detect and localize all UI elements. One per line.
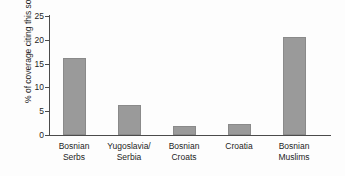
y-axis-tick [45, 40, 49, 41]
y-axis-tick-label: 20 [18, 36, 44, 44]
bar [228, 124, 251, 135]
y-axis-tick-label-wrap: 20 [14, 36, 44, 44]
y-axis-tick [45, 135, 49, 136]
y-axis-tick-label: 5 [18, 107, 44, 115]
y-axis-tick-label-wrap: 25 [14, 12, 44, 20]
bar [63, 58, 86, 135]
y-axis-tick [45, 64, 49, 65]
y-axis-tick [45, 111, 49, 112]
x-axis-category-label: Bosnian Muslims [262, 141, 326, 162]
y-axis-line [49, 15, 50, 136]
y-axis-tick-label: 25 [18, 12, 44, 20]
bar [173, 126, 196, 135]
y-axis-tick [45, 16, 49, 17]
x-axis-line [49, 135, 331, 136]
y-axis-tick-label: 10 [18, 83, 44, 91]
y-axis-tick-label-wrap: 5 [14, 107, 44, 115]
y-axis-tick-label-wrap: 10 [14, 83, 44, 91]
y-axis-tick-label-wrap: 0 [14, 131, 44, 139]
bar [283, 37, 306, 135]
y-axis-tick [45, 87, 49, 88]
y-axis-tick-label: 15 [18, 60, 44, 68]
y-axis-tick-label: 0 [18, 131, 44, 139]
y-axis-tick-label-wrap: 15 [14, 60, 44, 68]
bar-chart: % of coverage citing this source 0510152… [0, 0, 345, 176]
bar [118, 105, 141, 135]
